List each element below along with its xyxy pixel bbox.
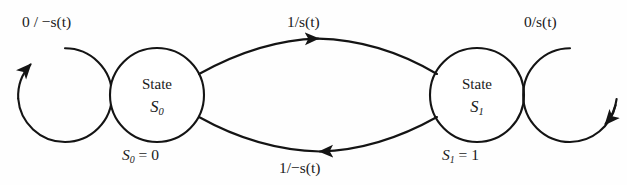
edge-label-self-loop-s1: 0/s(t) <box>524 14 557 30</box>
edge-label-self-loop-s0: 0 / −s(t) <box>22 14 71 30</box>
transition-s0-to-s1-edge <box>199 39 437 74</box>
transition-s1-to-s0-edge <box>199 117 437 152</box>
state-s0-name: S0 <box>127 99 187 116</box>
state-s1-assign-value: 1 <box>471 146 479 163</box>
state-s0-subscript: 0 <box>158 106 163 117</box>
state-machine-diagram: 0 / −s(t) 1/s(t) 0/s(t) 1/−s(t) State S0… <box>0 0 627 185</box>
self-loop-s0-edge <box>18 48 112 142</box>
state-circle-s1 <box>430 48 524 142</box>
state-s0-assign-var: S <box>122 146 130 163</box>
state-s0-assign-sub: 0 <box>130 154 135 165</box>
state-s0-title: State <box>127 77 187 92</box>
state-s1-assignment: S1 = 1 <box>442 147 479 163</box>
edge-label-s0-to-s1: 1/s(t) <box>287 14 320 30</box>
state-s1-subscript: 1 <box>478 106 483 117</box>
state-circle-s0 <box>110 48 204 142</box>
edge-label-s1-to-s0: 1/−s(t) <box>279 160 320 176</box>
state-s0-assignment: S0 = 0 <box>122 147 159 163</box>
state-s0-assign-value: 0 <box>151 146 159 163</box>
state-s1-title: State <box>447 77 507 92</box>
state-s1-name: S1 <box>447 99 507 116</box>
state-s1-assign-var: S <box>442 146 450 163</box>
state-s0-assign-equals: = <box>139 146 148 163</box>
self-loop-s1-edge <box>523 48 616 142</box>
state-s1-assign-equals: = <box>459 146 468 163</box>
state-s1-assign-sub: 1 <box>450 154 455 165</box>
